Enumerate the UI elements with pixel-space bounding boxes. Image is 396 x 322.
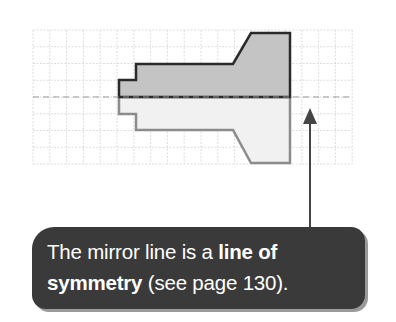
arrow-head-icon xyxy=(303,108,317,124)
callout-text: (see page 130). xyxy=(142,271,288,294)
callout-text: The mirror line is a xyxy=(47,240,218,263)
callout-line-2: symmetry (see page 130). xyxy=(47,267,365,298)
callout-bold-text: line of xyxy=(218,240,277,263)
callout-box: The mirror line is a line of symmetry (s… xyxy=(32,227,365,309)
callout-bold-text: symmetry xyxy=(47,271,142,294)
original-shape xyxy=(119,33,290,97)
reflected-shape xyxy=(119,97,290,163)
callout-line-1: The mirror line is a line of xyxy=(47,236,365,267)
